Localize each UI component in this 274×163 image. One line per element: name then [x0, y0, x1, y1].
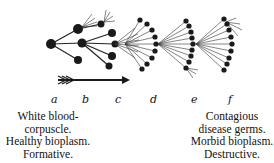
- stage-label-f: f: [228, 93, 232, 106]
- stage-label-c: c: [115, 93, 121, 106]
- stage-label-e: e: [191, 93, 198, 106]
- right-caption: Contagious disease germs. Morbid bioplas…: [186, 110, 274, 160]
- bioplasm-diagram: [0, 0, 274, 90]
- stage-label-a: a: [51, 93, 58, 106]
- stage-label-b: b: [82, 93, 89, 106]
- cell-dots: [46, 21, 119, 70]
- left-caption: White blood- corpuscle. Healthy bioplasm…: [0, 110, 96, 160]
- stage-label-d: d: [150, 93, 157, 106]
- right-arrow-icon: [58, 76, 130, 84]
